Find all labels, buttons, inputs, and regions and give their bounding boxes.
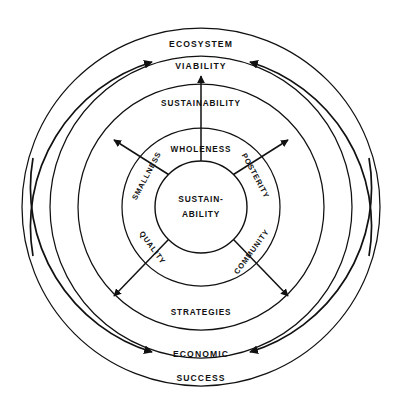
label-center-line1: SUSTAIN- — [178, 194, 223, 204]
curved-arrow-left-to-ecosystem — [30, 62, 152, 256]
label-spoke-quality: QUALITY — [137, 229, 167, 266]
arrow-quality-outward — [114, 240, 169, 297]
label-viability: VIABILITY — [175, 61, 226, 71]
label-economic: ECONOMIC — [173, 349, 229, 359]
curved-arrow-right-to-economic — [250, 158, 372, 352]
curved-arrow-left-to-economic — [30, 158, 152, 352]
diagram-canvas: ECOSYSTEM VIABILITY ECONOMIC SUCCESS SUS… — [0, 0, 403, 414]
label-ring-strategies: STRATEGIES — [171, 308, 232, 317]
label-ring-wholeness: WHOLENESS — [171, 145, 232, 154]
label-center-line2: ABILITY — [182, 209, 220, 219]
label-ring-sustainability: SUSTAINABILITY — [161, 99, 241, 108]
label-success: SUCCESS — [176, 373, 225, 383]
curved-arrow-right-to-ecosystem — [250, 62, 372, 256]
ring-center-sustainability — [155, 161, 247, 253]
label-ecosystem: ECOSYSTEM — [169, 39, 233, 49]
sustainability-concentric-diagram: ECOSYSTEM VIABILITY ECONOMIC SUCCESS SUS… — [0, 0, 403, 414]
